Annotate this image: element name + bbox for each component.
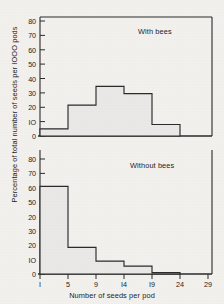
top-ytick-20: 20: [20, 103, 36, 112]
panel-label-with-bees: With bees: [138, 27, 172, 36]
bottom-ytick-20: 20: [20, 241, 36, 250]
bottom-ytick-60: 60: [20, 184, 36, 193]
xtick-29: 29: [201, 280, 215, 289]
xtick-9: 9: [89, 280, 103, 289]
bottom-ytick-0: 0: [20, 270, 36, 279]
xtick-14: I4: [117, 280, 131, 289]
bottom-histogram-bars: [40, 186, 180, 274]
top-ytick-0: 0: [20, 132, 36, 141]
top-ytick-10: IO: [20, 118, 36, 127]
figure-root: Percentage of total number of seeds per …: [0, 0, 224, 304]
xtick-5: 5: [61, 280, 75, 289]
bottom-x-ticks: [40, 274, 208, 279]
top-histogram-bars: [40, 86, 180, 136]
top-ytick-30: 30: [20, 89, 36, 98]
xtick-24: 24: [173, 280, 187, 289]
xtick-1: I: [33, 280, 47, 289]
top-ytick-60: 60: [20, 46, 36, 55]
bottom-ytick-10: IO: [20, 256, 36, 265]
bottom-ytick-70: 70: [20, 169, 36, 178]
bottom-ytick-50: 50: [20, 198, 36, 207]
top-ytick-70: 70: [20, 31, 36, 40]
bottom-ytick-30: 30: [20, 227, 36, 236]
top-ytick-50: 50: [20, 60, 36, 69]
bottom-ytick-40: 20: [20, 213, 36, 222]
bottom-ytick-80: 80: [20, 155, 36, 164]
panel-label-without-bees: Without bees: [130, 161, 174, 170]
x-axis-title: Number of seeds per pod: [0, 291, 224, 300]
top-ytick-80: 80: [20, 17, 36, 26]
top-y-ticks: [40, 21, 45, 136]
xtick-19: I9: [145, 280, 159, 289]
top-ytick-40: 40: [20, 75, 36, 84]
